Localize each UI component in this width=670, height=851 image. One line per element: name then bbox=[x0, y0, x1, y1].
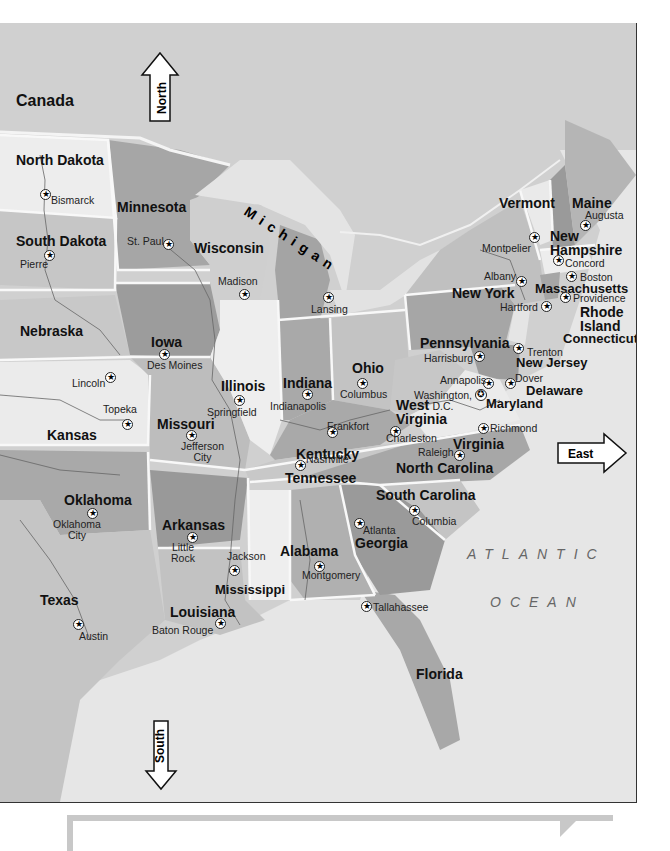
capital-star-icon: ★ bbox=[454, 450, 465, 461]
capital-label-topeka: Topeka bbox=[103, 404, 137, 415]
state-label-new-hampshire: New Hampshire bbox=[550, 229, 622, 257]
capital-label-richmond: Richmond bbox=[490, 423, 537, 434]
state-label-rhode-island: Rhode Island bbox=[580, 305, 624, 333]
state-label-virginia: Virginia bbox=[453, 437, 504, 451]
north-arrow-label: North bbox=[155, 82, 169, 114]
capital-label-jefferson-city: Jefferson City bbox=[181, 441, 224, 463]
state-label-arkansas: Arkansas bbox=[162, 518, 225, 532]
state-label-south-dakota: South Dakota bbox=[16, 234, 106, 248]
capital-star-icon: ★ bbox=[40, 189, 51, 200]
capital-label-indianapolis: Indianapolis bbox=[270, 401, 326, 412]
state-label-new-jersey: New Jersey bbox=[516, 356, 588, 369]
capital-star-icon: ★ bbox=[513, 343, 524, 354]
capital-label-montpelier: Montpelier bbox=[482, 243, 531, 254]
capital-label-hartford: Hartford bbox=[500, 302, 538, 313]
state-label-north-carolina: North Carolina bbox=[396, 461, 493, 475]
state-label-kansas: Kansas bbox=[47, 428, 97, 442]
capital-star-icon: ★ bbox=[239, 289, 250, 300]
capital-label-annapolis: Annapolis bbox=[440, 375, 486, 386]
state-label-line: New bbox=[550, 229, 622, 243]
map-frame: North South East Canada Michigan ATLANTI… bbox=[0, 23, 637, 803]
capital-star-icon: ★ bbox=[323, 292, 334, 303]
state-label-louisiana: Louisiana bbox=[170, 605, 235, 619]
ocean-label-line2: OCEAN bbox=[490, 595, 585, 609]
state-label-line: Virginia bbox=[396, 412, 447, 426]
state-label-georgia: Georgia bbox=[355, 536, 408, 550]
capital-star-icon: ★ bbox=[163, 239, 174, 250]
south-arrow: South bbox=[144, 719, 178, 791]
capital-label-providence: Providence bbox=[573, 293, 626, 304]
capital-label-oklahoma-city: Oklahoma City bbox=[53, 519, 101, 541]
capital-star-icon: ★ bbox=[553, 255, 564, 266]
state-label-missouri: Missouri bbox=[157, 417, 215, 431]
capital-star-icon: ★ bbox=[295, 460, 306, 471]
capital-label-line: City bbox=[53, 530, 101, 541]
capital-star-icon: ★ bbox=[105, 372, 116, 383]
ocean-label-line1: ATLANTIC bbox=[467, 547, 606, 561]
capital-label-baton-rouge: Baton Rouge bbox=[152, 625, 213, 636]
capital-label-line: Rock bbox=[171, 553, 195, 564]
dc-star-icon: ✪ bbox=[475, 389, 487, 401]
capital-star-icon: ★ bbox=[516, 276, 527, 287]
capital-label-lincoln: Lincoln bbox=[72, 378, 105, 389]
state-label-north-dakota: North Dakota bbox=[16, 153, 104, 167]
capital-label-concord: Concord bbox=[565, 258, 605, 269]
capital-star-icon: ★ bbox=[73, 619, 84, 630]
state-label-maine: Maine bbox=[572, 196, 612, 210]
state-label-illinois: Illinois bbox=[221, 379, 265, 393]
capital-star-icon: ★ bbox=[215, 618, 226, 629]
capital-label-tallahassee: Tallahassee bbox=[373, 602, 428, 613]
capital-star-icon: ★ bbox=[474, 351, 485, 362]
capital-label-lansing: Lansing bbox=[311, 304, 348, 315]
state-label-maryland: Maryland bbox=[486, 397, 543, 410]
capital-label-columbus: Columbus bbox=[340, 389, 387, 400]
capital-label-charleston: Charleston bbox=[386, 433, 437, 444]
map-base-shapes bbox=[0, 23, 636, 802]
capital-label-des-moines: Des Moines bbox=[147, 360, 202, 371]
capital-label-dover: Dover bbox=[515, 373, 543, 384]
capital-label-columbia: Columbia bbox=[412, 516, 456, 527]
capital-label-st-paul: St. Paul bbox=[127, 236, 164, 247]
capital-label-atlanta: Atlanta bbox=[363, 525, 396, 536]
state-label-line: Rhode bbox=[580, 305, 624, 319]
capital-star-icon: ★ bbox=[560, 292, 571, 303]
east-arrow: East bbox=[556, 432, 628, 474]
state-label-texas: Texas bbox=[40, 593, 79, 607]
state-label-iowa: Iowa bbox=[151, 335, 182, 349]
capital-star-icon: ★ bbox=[234, 395, 245, 406]
state-label-wisconsin: Wisconsin bbox=[194, 241, 264, 255]
state-label-ohio: Ohio bbox=[352, 361, 384, 375]
capital-label-montgomery: Montgomery bbox=[302, 570, 360, 581]
capital-label-augusta: Augusta bbox=[585, 210, 624, 221]
capital-label-bismarck: Bismarck bbox=[51, 195, 94, 206]
capital-star-icon: ★ bbox=[361, 601, 372, 612]
capital-label-frankfort: Frankfort bbox=[327, 421, 369, 432]
capital-label-albany: Albany bbox=[484, 271, 516, 282]
capital-label-madison: Madison bbox=[218, 276, 258, 287]
state-label-tennessee: Tennessee bbox=[285, 471, 356, 485]
capital-label-line: City bbox=[181, 452, 224, 463]
capital-label-little-rock: Little Rock bbox=[171, 542, 195, 564]
capital-label-jackson: Jackson bbox=[227, 551, 266, 562]
north-arrow: North bbox=[140, 51, 180, 123]
capital-label-raleigh: Raleigh bbox=[418, 447, 454, 458]
state-label-mississippi: Mississippi bbox=[215, 583, 285, 596]
capital-label-harrisburg: Harrisburg bbox=[424, 353, 473, 364]
capital-star-icon: ★ bbox=[478, 423, 489, 434]
state-label-pennsylvania: Pennsylvania bbox=[420, 336, 510, 350]
capital-star-icon: ★ bbox=[302, 389, 313, 400]
state-label-south-carolina: South Carolina bbox=[376, 488, 476, 502]
state-label-oklahoma: Oklahoma bbox=[64, 493, 132, 507]
state-label-connecticut: Connecticut bbox=[563, 332, 637, 345]
state-label-new-york: New York bbox=[452, 286, 515, 300]
capital-star-icon: ★ bbox=[580, 220, 591, 231]
bottom-panel bbox=[67, 815, 613, 851]
capital-star-icon: ★ bbox=[122, 419, 133, 430]
south-arrow-label: South bbox=[153, 729, 167, 763]
state-label-minnesota: Minnesota bbox=[117, 200, 186, 214]
capital-label-washington-dc: Washington, D.C. bbox=[414, 390, 472, 412]
capital-star-icon: ★ bbox=[229, 565, 240, 576]
state-label-vermont: Vermont bbox=[499, 196, 555, 210]
state-label-alabama: Alabama bbox=[280, 544, 338, 558]
state-label-indiana: Indiana bbox=[283, 376, 332, 390]
